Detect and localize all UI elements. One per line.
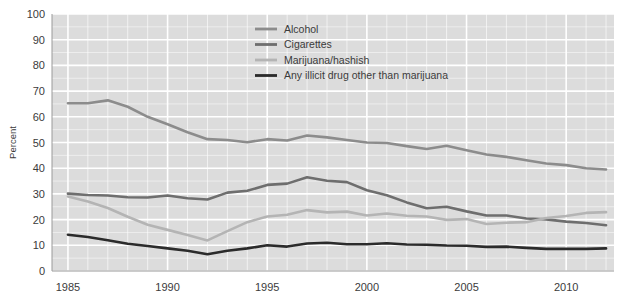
y-axis-tick-label: 90 <box>33 34 45 46</box>
y-axis-tick-label: 40 <box>33 162 45 174</box>
x-axis-tick-label: 1995 <box>255 281 279 293</box>
y-axis-tick-label: 10 <box>33 239 45 251</box>
y-axis-title-label: Percent <box>7 126 18 159</box>
y-axis-tick-label: 100 <box>27 8 45 20</box>
x-axis-tick-label: 1985 <box>56 281 80 293</box>
y-axis-tick-label: 0 <box>39 265 45 277</box>
x-axis-tick-label: 1990 <box>155 281 179 293</box>
y-axis-tick-label: 70 <box>33 85 45 97</box>
y-axis-tick-label: 50 <box>33 137 45 149</box>
y-axis-tick-label: 60 <box>33 111 45 123</box>
gridlines <box>52 14 614 271</box>
x-axis-tick-label: 2010 <box>554 281 578 293</box>
y-axis-tick-label: 80 <box>33 59 45 71</box>
legend-label: Cigarettes <box>284 38 332 50</box>
y-axis-tick-label: 20 <box>33 214 45 226</box>
x-axis-tick-label: 2000 <box>355 281 379 293</box>
y-axis-title: Percent <box>7 126 18 159</box>
x-axis-tick-label: 2005 <box>454 281 478 293</box>
line-chart: 0102030405060708090100 19851990199520002… <box>0 0 622 306</box>
legend-label: Alcohol <box>284 23 318 35</box>
y-axis-tick-label: 30 <box>33 188 45 200</box>
legend-label: Marijuana/hashish <box>284 54 369 66</box>
legend-label: Any illicit drug other than marijuana <box>284 69 448 81</box>
chart-container: 0102030405060708090100 19851990199520002… <box>0 0 622 306</box>
